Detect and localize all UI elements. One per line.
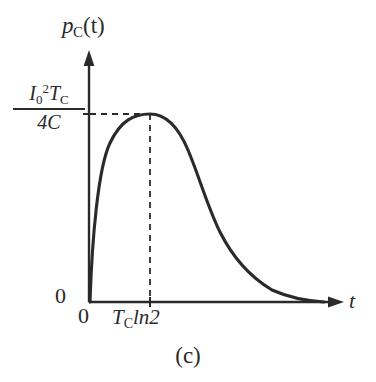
numerator-symbol: I xyxy=(29,82,36,104)
fraction-denominator: 4C xyxy=(13,111,85,132)
y-axis-label-argument: (t) xyxy=(83,13,105,38)
x-axis-tick-label: TCln2 xyxy=(112,307,160,331)
y-axis-label-symbol: p xyxy=(62,13,74,38)
figure-container: pC(t) t I02TC 4C 0 0 TCln2 (c) xyxy=(0,0,376,382)
numerator-tail-subscript: C xyxy=(60,92,69,107)
x-axis-origin-label: 0 xyxy=(78,305,89,327)
y-axis-label-subscript: C xyxy=(73,24,83,40)
y-axis-origin-label: 0 xyxy=(55,285,66,307)
numerator-tail-symbol: T xyxy=(49,82,60,104)
fraction-numerator: I02TC xyxy=(13,82,85,107)
power-curve xyxy=(90,114,324,302)
x-axis xyxy=(89,297,344,308)
plot-canvas xyxy=(0,0,376,382)
y-axis-arrowhead xyxy=(84,50,95,66)
x-axis-arrowhead xyxy=(328,297,344,308)
xtick-subscript: C xyxy=(124,316,133,331)
fraction-bar xyxy=(13,108,85,110)
xtick-factor: ln2 xyxy=(133,305,160,329)
figure-caption: (c) xyxy=(0,344,376,367)
xtick-symbol: T xyxy=(112,305,124,329)
y-axis-peak-value-label: I02TC 4C xyxy=(13,82,85,132)
x-axis-label: t xyxy=(349,290,355,312)
y-axis-label: pC(t) xyxy=(62,14,105,40)
